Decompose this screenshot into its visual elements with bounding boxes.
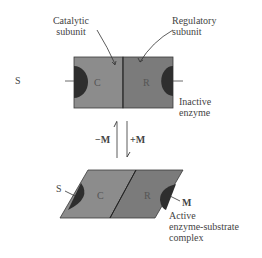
equilibrium-arrows bbox=[114, 121, 130, 158]
catalytic-subunit-label: Catalytic subunit bbox=[47, 15, 95, 37]
modulator-label: M bbox=[182, 197, 191, 208]
substrate-label-top: S bbox=[15, 75, 21, 86]
plus-modulator-label: +M bbox=[130, 134, 145, 145]
subunit-r-label: R bbox=[143, 77, 150, 88]
active-complex-label: Active enzyme-substrate complex bbox=[169, 210, 239, 243]
subunit-c-active-label: C bbox=[97, 190, 104, 201]
inactive-enzyme: C R bbox=[65, 57, 183, 108]
regulatory-subunit-label: Regulatory subunit bbox=[172, 15, 216, 37]
subunit-c-label: C bbox=[94, 77, 101, 88]
inactive-enzyme-label: Inactive enzyme bbox=[179, 96, 211, 118]
active-complex: C R bbox=[60, 170, 183, 218]
minus-modulator-label: −M bbox=[95, 134, 110, 145]
subunit-r-active-label: R bbox=[144, 190, 151, 201]
substrate-label-bottom: S bbox=[56, 183, 62, 194]
